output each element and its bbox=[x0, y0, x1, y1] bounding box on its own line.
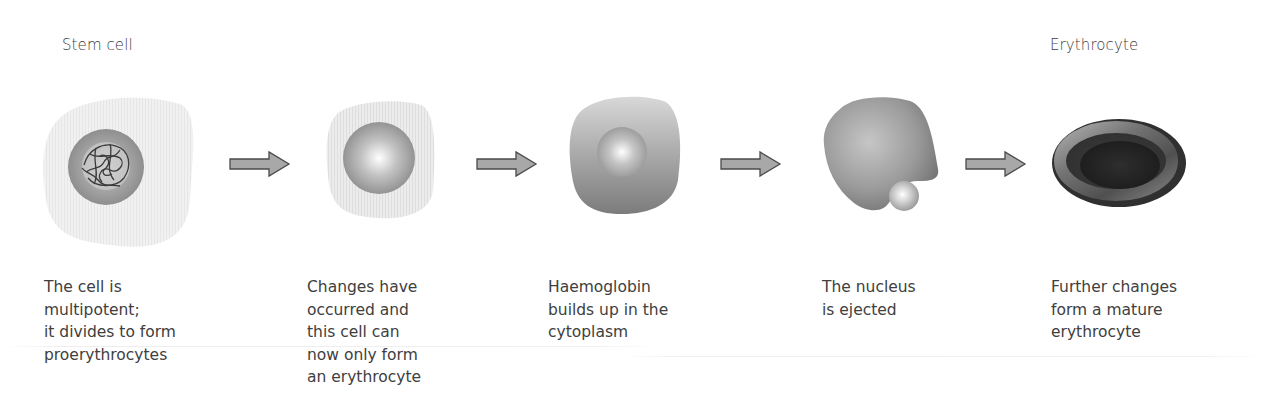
right-arrow-icon bbox=[476, 150, 538, 178]
right-arrow-icon bbox=[720, 150, 782, 178]
stem-cell-label: Stem cell bbox=[62, 36, 133, 54]
caption-nucleus-ejection: The nucleus is ejected bbox=[822, 276, 1022, 321]
caption-line: it divides to form bbox=[44, 321, 244, 344]
right-arrow-icon bbox=[229, 150, 291, 178]
caption-line: The nucleus bbox=[822, 276, 1022, 299]
caption-line: is ejected bbox=[822, 299, 1022, 322]
caption-line: this cell can bbox=[307, 321, 507, 344]
caption-proerythrocyte: Changes have occurred and this cell can … bbox=[307, 276, 507, 389]
caption-line: Changes have bbox=[307, 276, 507, 299]
caption-line: occurred and bbox=[307, 299, 507, 322]
caption-erythrocyte: Further changes form a mature erythrocyt… bbox=[1051, 276, 1251, 344]
divider-line bbox=[620, 356, 1264, 357]
caption-line: Further changes bbox=[1051, 276, 1251, 299]
caption-line: Haemoglobin bbox=[548, 276, 748, 299]
caption-line: now only form bbox=[307, 344, 507, 367]
haemoglobin-cell-icon bbox=[566, 92, 684, 216]
right-arrow-icon bbox=[965, 150, 1027, 178]
caption-line: multipotent; bbox=[44, 299, 244, 322]
caption-line: an erythrocyte bbox=[307, 366, 507, 389]
caption-stem-cell: The cell is multipotent; it divides to f… bbox=[44, 276, 244, 366]
erythrocyte-icon bbox=[1050, 117, 1188, 209]
caption-line: erythrocyte bbox=[1051, 321, 1251, 344]
nucleus-ejection-icon bbox=[820, 95, 946, 217]
caption-haemoglobin-stage: Haemoglobin builds up in the cytoplasm bbox=[548, 276, 748, 344]
stem-cell-icon bbox=[40, 90, 200, 255]
erythrocyte-label: Erythrocyte bbox=[1050, 36, 1138, 54]
caption-line: The cell is bbox=[44, 276, 244, 299]
caption-line: builds up in the bbox=[548, 299, 748, 322]
caption-line: proerythrocytes bbox=[44, 344, 244, 367]
proerythrocyte-icon bbox=[325, 98, 437, 222]
caption-line: cytoplasm bbox=[548, 321, 748, 344]
caption-line: form a mature bbox=[1051, 299, 1251, 322]
